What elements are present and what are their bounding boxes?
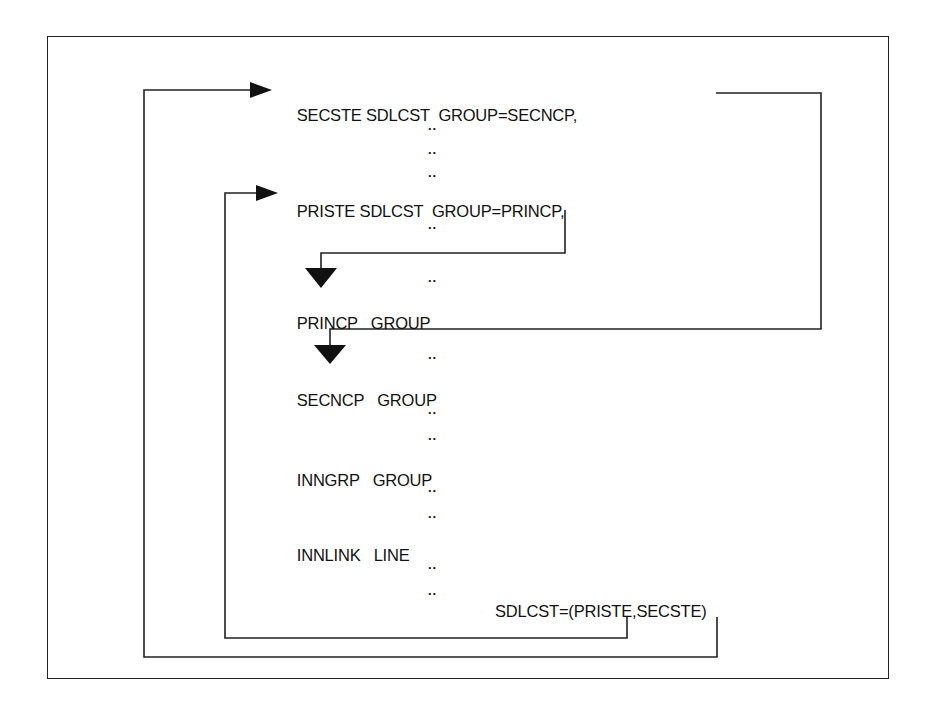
statement-label: INNLINK [297, 546, 361, 564]
arrow-down-icon [305, 268, 337, 288]
ellipsis: .. [428, 348, 437, 361]
statement-label: PRISTE [297, 202, 355, 220]
statement-priste: PRISTE SDLCST GROUP=PRINCP, [288, 186, 564, 219]
statement-inngrp: INNGRP GROUP [288, 455, 432, 488]
arrow-down-icon [314, 345, 346, 364]
statement-type: SDLCST [360, 202, 424, 220]
ellipsis: .. [428, 584, 437, 597]
ellipsis: .. [428, 119, 437, 132]
ellipsis: .. [428, 403, 437, 416]
statement-operand: GROUP=PRINCP, [432, 202, 564, 220]
statement-label: SECSTE [297, 106, 362, 124]
statement-type: GROUP [373, 471, 433, 489]
ellipsis: .. [428, 481, 437, 494]
sdlcst-operand: SDLCST=(PRISTE,SECSTE) [495, 603, 707, 620]
ellipsis: .. [428, 143, 437, 156]
statement-label: PRINCP [297, 314, 358, 332]
statement-type: GROUP [371, 314, 431, 332]
statement-type: SDLCST [366, 106, 430, 124]
ellipsis: .. [428, 271, 437, 284]
statement-label: SECNCP [297, 391, 364, 409]
statement-label: INNGRP [297, 471, 360, 489]
statement-innlink: INNLINK LINE [288, 530, 410, 563]
ellipsis: .. [428, 558, 437, 571]
statement-secncp: SECNCP GROUP [288, 375, 437, 408]
ellipsis: .. [428, 429, 437, 442]
priste-loop-line [225, 193, 627, 638]
ellipsis: .. [428, 166, 437, 179]
arrow-right-icon [256, 185, 278, 201]
statement-operand: GROUP=SECNCP, [438, 106, 577, 124]
statement-princp: PRINCP GROUP [288, 298, 430, 331]
statement-type: LINE [374, 546, 410, 564]
ellipsis: .. [428, 218, 437, 231]
ellipsis: .. [428, 507, 437, 520]
arrow-right-icon [250, 82, 272, 98]
